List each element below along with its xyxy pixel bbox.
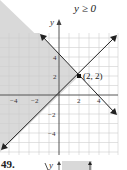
x-tick-label: −4 [10, 97, 18, 105]
x-tick-label: 2 [77, 97, 81, 105]
coordinate-graph: y (2, 2) −4 −2 2 4 4 2 −2 −4 y [0, 0, 127, 170]
next-graph-shade [62, 161, 92, 170]
y-axis-arrow-icon [57, 19, 62, 25]
y-tick-label: 2 [53, 73, 57, 81]
point-label: (2, 2) [83, 71, 103, 81]
x-tick-label: −2 [31, 97, 39, 105]
x-tick-label: 4 [97, 97, 101, 105]
y-tick-label: −2 [48, 111, 56, 119]
y-tick-label: 4 [53, 54, 57, 62]
next-problem-number: 49. [1, 158, 15, 170]
next-graph-line [45, 163, 48, 170]
intersection-point [77, 74, 81, 78]
y-tick-label: −4 [48, 130, 56, 138]
arrow-icon [57, 161, 61, 165]
y-axis-label: y [49, 17, 54, 27]
shaded-region-lower [0, 33, 79, 152]
next-graph-y-label: y [48, 160, 53, 170]
